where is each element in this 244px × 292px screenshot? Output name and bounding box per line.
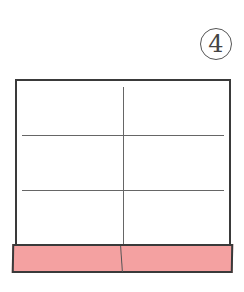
vertical-crease xyxy=(123,87,124,245)
step-number-badge: 4 xyxy=(200,28,232,60)
step-number: 4 xyxy=(208,32,223,56)
